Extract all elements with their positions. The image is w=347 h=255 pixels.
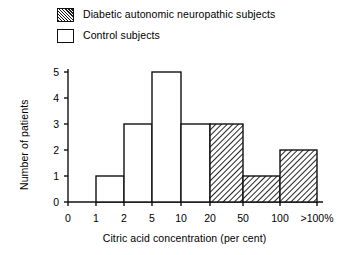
chart-bars (96, 72, 317, 202)
chart-canvas (0, 0, 347, 255)
histogram-bar (96, 176, 124, 202)
histogram-plot: Number of patients Citric acid concentra… (0, 0, 347, 255)
histogram-bar (152, 72, 181, 202)
histogram-bar (181, 124, 210, 202)
histogram-bar (210, 124, 243, 202)
histogram-bar (280, 150, 317, 202)
histogram-bar (243, 176, 280, 202)
histogram-bar (124, 124, 152, 202)
